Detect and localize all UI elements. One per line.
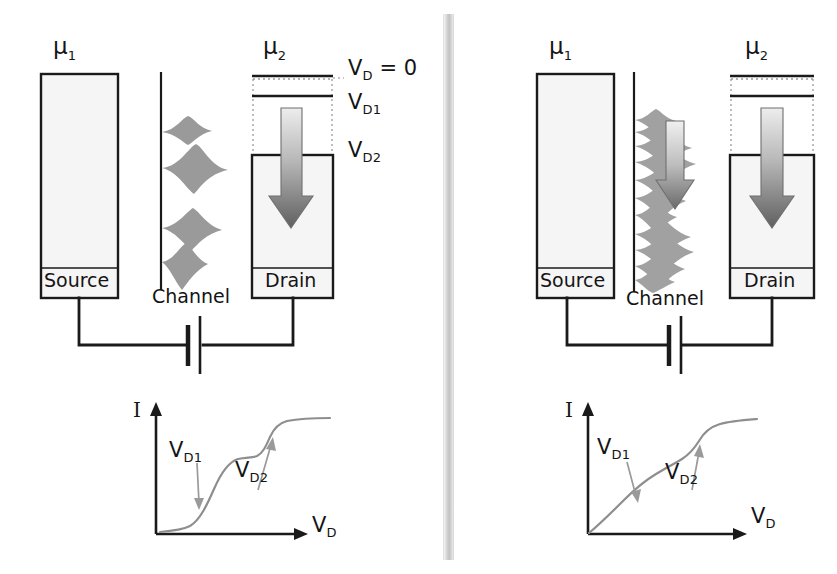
channel-text-left: Channel	[152, 287, 230, 306]
vd1-annotation-arrowhead-left	[194, 498, 204, 510]
mu1-label-right: μ1	[549, 35, 572, 62]
level-label-vd2-left: VD2	[348, 140, 381, 164]
figure-canvas: μ1 μ2 Source Channel Drain VD = 0 VD1 VD…	[0, 0, 837, 574]
drain-text-right: Drain	[744, 271, 795, 290]
vd1-annotation-line-right	[627, 462, 636, 496]
graph-annotation-vd2-left: VD2	[235, 460, 268, 484]
graph-annotation-vd2-right: VD2	[665, 462, 698, 486]
graph-annotation-vd1-right: VD1	[597, 437, 630, 461]
mu2-label-left: μ2	[263, 35, 286, 62]
graph-x-label-left: VD	[312, 515, 337, 539]
graph-y-arrowhead-right	[582, 402, 594, 416]
channel-text-right: Channel	[626, 289, 704, 308]
graph-y-label-right: I	[565, 400, 573, 420]
mu1-label-left: μ1	[53, 35, 76, 62]
source-text-right: Source	[540, 271, 605, 290]
vd1-annotation-line-left	[197, 463, 199, 503]
graph-x-label-right: VD	[751, 506, 776, 530]
graph-annotation-vd1-left: VD1	[169, 440, 202, 464]
source-text-left: Source	[44, 271, 109, 290]
level-label-vd1-left: VD1	[348, 92, 381, 116]
graph-y-arrowhead-left	[150, 402, 162, 416]
graph-x-arrowhead-right	[733, 528, 747, 540]
graph-x-arrowhead-left	[294, 528, 308, 540]
source-box-right	[537, 74, 614, 298]
mu2-label-right: μ2	[745, 35, 768, 62]
level-label-vd0-left: VD = 0	[348, 58, 417, 82]
source-box-left	[41, 74, 118, 298]
diagram-vector-layer	[0, 0, 837, 574]
channel-dos-peaks-left	[162, 116, 228, 290]
drain-text-left: Drain	[265, 271, 316, 290]
graph-y-label-left: I	[133, 400, 141, 420]
